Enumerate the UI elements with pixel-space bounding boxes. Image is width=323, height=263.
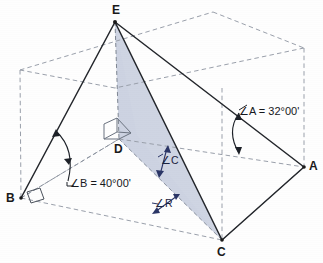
vertex-label-D: D: [114, 143, 123, 155]
vertex-dot-a: [302, 165, 306, 169]
right-angle-marker-b: [27, 188, 44, 203]
box-edge-top-left: [20, 70, 115, 88]
geometry-figure: E D B C A ∠A = 32°00' ∠B = 40°00' ∠C ∠R: [0, 0, 323, 263]
geometry-canvas: [0, 0, 323, 263]
vertex-label-A: A: [309, 160, 318, 172]
vertex-label-C: C: [217, 246, 226, 258]
box-edge-top-right: [213, 12, 304, 48]
vertex-label-E: E: [112, 4, 120, 16]
box-edge-vert-left: [20, 70, 21, 198]
angle-r-label: ∠R: [155, 198, 173, 209]
edge-eb: [21, 22, 115, 198]
vertex-dot-e: [113, 20, 117, 24]
angle-b-arrowhead-top: [52, 129, 60, 137]
angle-c-label: ∠C: [161, 155, 179, 166]
angle-b-arc-arrow: [56, 131, 70, 181]
box-edge-top-front: [115, 48, 304, 88]
angle-a-label: ∠A = 32°00': [239, 106, 299, 117]
edge-ca: [222, 167, 304, 240]
vertex-label-B: B: [6, 192, 15, 204]
vertex-dot-b: [19, 196, 23, 200]
vertex-dot-c: [220, 238, 224, 242]
angle-a-arrowhead-bottom: [235, 147, 242, 155]
angle-b-label: ∠B = 40°00': [70, 178, 131, 189]
